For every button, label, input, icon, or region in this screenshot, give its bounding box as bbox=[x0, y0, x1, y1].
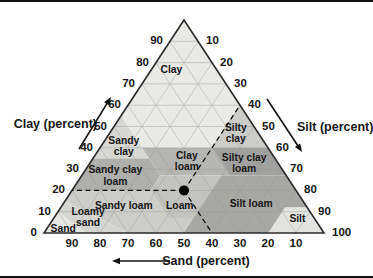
soil-texture-triangle-chart: ClaySiltyclaySandyclayClayloamSilty clay… bbox=[0, 0, 373, 278]
silt-tick-70: 70 bbox=[290, 162, 303, 174]
data-point-0 bbox=[179, 185, 189, 195]
sand-tick-90: 90 bbox=[66, 237, 79, 249]
sand-tick-70: 70 bbox=[122, 237, 135, 249]
clay-tick-30: 30 bbox=[66, 162, 79, 174]
sand-tick-50: 50 bbox=[178, 237, 191, 249]
clay-tick-70: 70 bbox=[122, 77, 135, 89]
region-label-loamy-sand: Loamysand bbox=[71, 206, 104, 228]
region-label-clay-loam: Clayloam bbox=[175, 150, 199, 172]
soil-texture-figure: ClaySiltyclaySandyclayClayloamSilty clay… bbox=[0, 0, 373, 278]
silt-tick-30: 30 bbox=[234, 77, 247, 89]
sand-tick-60: 60 bbox=[150, 237, 163, 249]
region-label-silt-loam: Silt loam bbox=[230, 198, 273, 209]
sand-axis-arrow-head bbox=[112, 258, 120, 264]
clay-tick-10: 10 bbox=[38, 205, 51, 217]
silt-tick-60: 60 bbox=[276, 141, 289, 153]
sand-tick-80: 80 bbox=[94, 237, 107, 249]
region-label-silty-clay: Siltyclay bbox=[225, 122, 247, 144]
top-border-rule bbox=[0, 0, 373, 2]
region-label-sand: Sand bbox=[51, 223, 76, 234]
clay-axis-title: Clay (percent) bbox=[14, 117, 97, 131]
silt-tick-40: 40 bbox=[248, 98, 261, 110]
clay-tick-20: 20 bbox=[52, 183, 65, 195]
sand-tick-30: 30 bbox=[234, 237, 247, 249]
silt-tick-10: 10 bbox=[206, 34, 219, 46]
silt-tick-90: 90 bbox=[318, 205, 331, 217]
clay-tick-80: 80 bbox=[136, 56, 149, 68]
silt-axis-title: Silt (percent) bbox=[297, 120, 373, 134]
silt-axis-arrow-head bbox=[295, 144, 302, 152]
sand-axis-title: Sand (percent) bbox=[162, 254, 250, 268]
clay-tick-90: 90 bbox=[150, 34, 163, 46]
silt-tick-50: 50 bbox=[262, 120, 275, 132]
clay-tick-0: 0 bbox=[31, 226, 37, 238]
sand-tick-40: 40 bbox=[206, 237, 219, 249]
silt-tick-20: 20 bbox=[220, 56, 233, 68]
region-label-clay: Clay bbox=[161, 64, 183, 75]
sand-tick-20: 20 bbox=[262, 237, 275, 249]
region-label-silt: Silt bbox=[289, 213, 306, 224]
silt-tick-80: 80 bbox=[304, 183, 317, 195]
silt-tick-100: 100 bbox=[332, 226, 351, 238]
region-label-loam: Loam bbox=[166, 200, 193, 211]
sand-tick-10: 10 bbox=[290, 237, 303, 249]
